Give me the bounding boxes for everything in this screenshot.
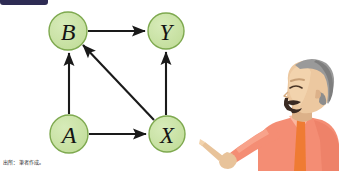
figure-root: B Y A X 出所：筆者作成。 — [0, 0, 341, 171]
causal-diagram: B Y A X — [0, 0, 200, 160]
node-a[interactable]: A — [50, 115, 88, 153]
node-y[interactable]: Y — [148, 13, 184, 49]
node-x-label: X — [159, 123, 175, 148]
node-b[interactable]: B — [49, 12, 87, 50]
edge-x-to-b — [83, 45, 154, 120]
node-b-label: B — [61, 19, 76, 45]
pointing-man-illustration — [196, 52, 341, 171]
node-x[interactable]: X — [149, 116, 185, 152]
pointing-finger — [201, 142, 223, 161]
node-a-label: A — [60, 122, 77, 148]
edge-group — [69, 31, 166, 134]
node-y-label: Y — [160, 20, 175, 45]
source-caption: 出所：筆者作成。 — [3, 158, 45, 165]
